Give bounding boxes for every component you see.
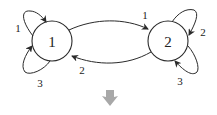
node-1: 1: [32, 21, 72, 61]
loop-2-lower-label: 3: [177, 75, 183, 87]
loop-1-upper-label: 1: [15, 22, 21, 34]
node-2-label: 2: [164, 34, 172, 50]
node-1-label: 1: [48, 34, 56, 50]
loop-1-lower-label: 3: [37, 77, 43, 89]
edge-1-to-2-label: 1: [142, 9, 148, 21]
loop-2-upper-label: 2: [200, 26, 206, 38]
edge-2-to-1: 2: [72, 52, 151, 76]
down-arrow-icon: [102, 90, 118, 106]
edge-2-to-1-label: 2: [79, 64, 85, 76]
node-2: 2: [148, 21, 188, 61]
state-diagram: 1 2 1 2 1 3 2 3: [0, 0, 217, 115]
edge-1-to-2: 1: [69, 9, 148, 30]
